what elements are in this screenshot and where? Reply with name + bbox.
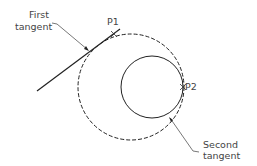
first-tangent-leader (52, 23, 88, 50)
p1-marker-icon (111, 31, 117, 37)
second-tangent-label: Second (203, 139, 238, 150)
p1-label: P1 (107, 16, 119, 27)
diagram-canvas: First tangent P1 P2 Second tangent (0, 0, 257, 166)
second-tangent-leader (170, 118, 199, 152)
first-tangent-label: tangent (15, 21, 52, 32)
tangent-circle-diagram: First tangent P1 P2 Second tangent (0, 0, 257, 166)
solid-circle (121, 56, 183, 118)
dashed-circle (78, 34, 184, 140)
second-tangent-label: tangent (203, 150, 240, 161)
first-tangent-label: First (29, 9, 49, 20)
p2-label: P2 (185, 81, 197, 92)
leader-arrow-icon (84, 46, 89, 51)
